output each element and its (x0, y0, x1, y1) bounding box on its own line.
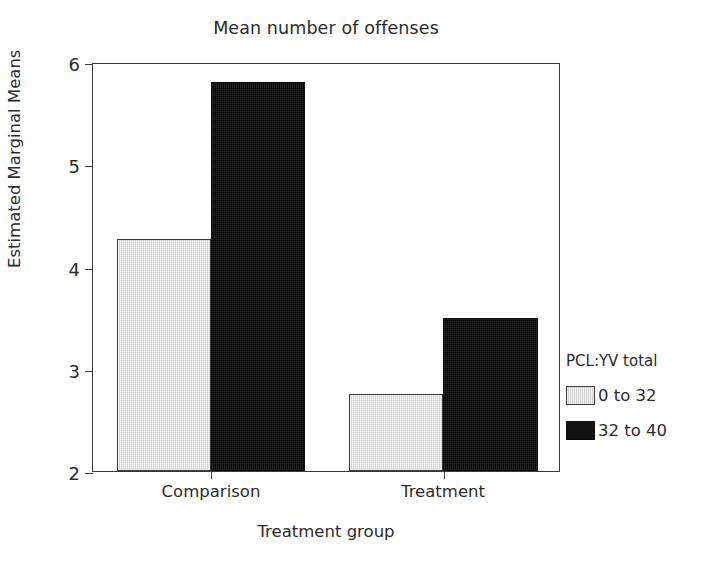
y-tick-label-2: 2 (69, 465, 80, 483)
x-category-label-comparison: Comparison (118, 482, 304, 501)
legend: PCL:YV total 0 to 32 32 to 40 (566, 352, 716, 456)
y-axis-title: Estimated Marginal Means (5, 49, 24, 267)
y-tick-5: 5 (85, 166, 93, 167)
y-tick-label-5: 5 (69, 158, 80, 176)
x-axis-title: Treatment group (92, 522, 560, 541)
x-tick-comparison (211, 471, 212, 479)
y-tick-4: 4 (85, 269, 93, 270)
legend-item-0to32[interactable]: 0 to 32 (566, 386, 716, 405)
plot-inner: 2 3 4 5 6 (93, 64, 559, 471)
legend-swatch-32to40 (566, 421, 595, 440)
legend-title: PCL:YV total (566, 352, 716, 370)
y-tick-label-6: 6 (69, 56, 80, 74)
y-tick-2: 2 (85, 473, 93, 474)
y-tick-3: 3 (85, 371, 93, 372)
legend-swatch-0to32 (566, 386, 595, 405)
legend-label-0to32: 0 to 32 (598, 386, 657, 405)
y-tick-label-3: 3 (69, 362, 80, 380)
bar-comparison-32to40 (211, 82, 305, 471)
y-tick-6: 6 (85, 64, 93, 65)
legend-item-32to40[interactable]: 32 to 40 (566, 421, 716, 440)
x-category-label-treatment: Treatment (350, 482, 536, 501)
x-tick-treatment (444, 471, 445, 479)
plot-area: 2 3 4 5 6 (92, 63, 560, 472)
y-tick-label-4: 4 (69, 260, 80, 278)
chart-container: Mean number of offenses Estimated Margin… (0, 0, 716, 565)
chart-title: Mean number of offenses (92, 18, 560, 38)
bar-treatment-32to40 (443, 318, 538, 471)
legend-label-32to40: 32 to 40 (598, 421, 667, 440)
y-axis-title-wrapper: Estimated Marginal Means (0, 63, 40, 472)
bar-treatment-0to32 (349, 394, 443, 471)
bar-comparison-0to32 (117, 239, 211, 471)
